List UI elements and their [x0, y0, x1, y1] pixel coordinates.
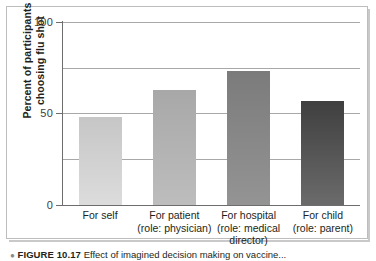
y-tick-label-0: 0	[47, 200, 53, 211]
y-axis-title-line-2: choosing flu shot	[33, 16, 45, 105]
caption-bullet-icon: ●	[10, 251, 15, 260]
x-category-labels: For self For patient (role: physician) F…	[63, 209, 360, 249]
bar-for-self[interactable]	[79, 117, 122, 205]
bar-for-child[interactable]	[301, 101, 344, 205]
x-label-for-child-line-2: (role: parent)	[278, 222, 368, 235]
y-axis-title-line-1: Percent of participants	[21, 2, 33, 118]
bar-for-patient[interactable]	[153, 90, 196, 205]
bar-for-hospital[interactable]	[227, 71, 270, 205]
x-label-for-child: For child (role: parent)	[278, 209, 368, 234]
y-tick-label-100: 100	[34, 17, 53, 28]
figure-caption: ● FIGURE 10.17 Effect of imagined decisi…	[10, 249, 370, 261]
x-axis-line	[62, 205, 360, 206]
caption-text: Effect of imagined decision making on va…	[84, 249, 287, 260]
frame-shadow-right	[368, 9, 370, 242]
caption-figure-number: FIGURE 10.17	[17, 249, 81, 260]
y-tick-label-50: 50	[40, 108, 53, 119]
bars-layer	[63, 22, 360, 205]
x-label-for-hospital-line-3: director)	[204, 234, 294, 247]
x-label-for-child-line-1: For child	[278, 209, 368, 222]
